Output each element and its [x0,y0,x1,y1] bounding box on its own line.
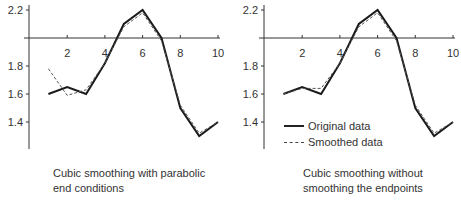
y-tick-label: 1.4 [243,116,258,128]
original-data-line [48,10,218,136]
x-tick-label: 6 [375,47,381,59]
y-tick-label: 1.8 [243,60,258,72]
y-tick-label: 2.2 [8,4,23,16]
x-tick-label: 6 [140,47,146,59]
x-tick-label: 8 [412,47,418,59]
dashed-line-swatch-icon [284,142,304,143]
legend-label-original: Original data [308,120,370,132]
solid-line-swatch-icon [284,125,304,127]
x-tick-label: 8 [177,47,183,59]
right-caption-line-1: Cubic smoothing without [303,166,423,181]
legend-item-smoothed: Smoothed data [284,134,383,150]
right-chart-caption: Cubic smoothing without smoothing the en… [303,166,423,196]
legend-label-smoothed: Smoothed data [308,136,383,148]
x-tick-label: 10 [212,47,224,59]
x-tick-label: 2 [299,47,305,59]
x-tick-label: 2 [64,47,70,59]
left-caption-line-2: end conditions [53,181,205,196]
legend: Original data Smoothed data [284,118,383,150]
y-tick-label: 1.6 [243,88,258,100]
y-tick-label: 2.2 [243,4,258,16]
smoothed-data-line [48,13,218,133]
right-caption-line-2: smoothing the endpoints [303,181,423,196]
y-tick-label: 1.4 [8,116,23,128]
y-tick-label: 1.6 [8,88,23,100]
left-caption-line-1: Cubic smoothing with parabolic [53,166,205,181]
y-tick-label: 1.8 [8,60,23,72]
left-chart: 2.21.81.61.4246810 [8,4,224,149]
left-chart-caption: Cubic smoothing with parabolic end condi… [53,166,205,196]
legend-item-original: Original data [284,118,383,134]
smoothed-data-line [283,13,453,133]
x-tick-label: 10 [447,47,459,59]
